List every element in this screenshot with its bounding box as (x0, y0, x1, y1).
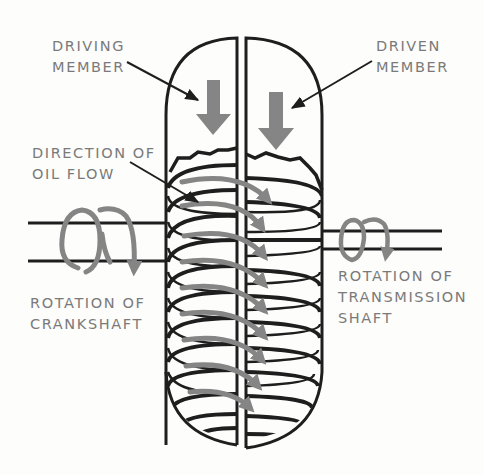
fluid-coupling-diagram: DRIVING MEMBER DRIVEN MEMBER DIRECTION O… (0, 0, 484, 475)
transmission-rotation-arrow (341, 219, 388, 260)
crankshaft-rotation-arrow (62, 209, 135, 272)
label-oil-flow: DIRECTION OF OIL FLOW (32, 143, 156, 185)
driven-member-arrow (258, 92, 294, 150)
driven-member-leader (292, 61, 372, 108)
cutaway-edge-right (246, 153, 322, 190)
label-transmission-rotation: ROTATION OF TRANSMISSION SHAFT (338, 266, 467, 329)
driving-member-leader (127, 62, 198, 100)
label-driven-member: DRIVEN MEMBER (376, 36, 449, 78)
label-crankshaft-rotation: ROTATION OF CRANKSHAFT (30, 293, 145, 335)
label-driving-member: DRIVING MEMBER (52, 36, 125, 78)
driving-member-arrow (196, 80, 231, 135)
driven-member-vanes (246, 178, 322, 438)
